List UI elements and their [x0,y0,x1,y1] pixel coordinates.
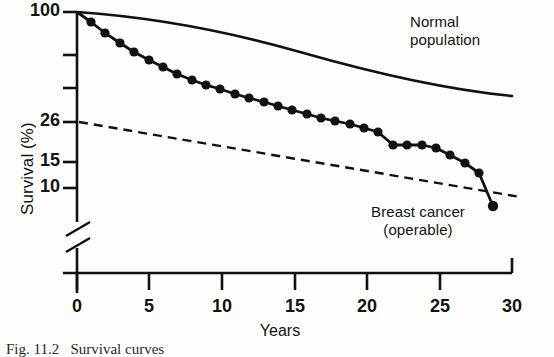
dashed-reference-line [79,122,520,197]
ytick-label-100: 100 [8,0,60,20]
annotation-breast-cancer-line2: (operable) [338,222,498,239]
y-axis-title: Survival (%) [18,122,37,215]
xtick-label-0: 0 [53,296,101,316]
xtick-label-30: 30 [488,296,536,316]
figure-container: 100 26 15 10 Survival (%) 0 5 10 15 20 2… [0,0,554,357]
axis-break-slash-1 [66,222,90,236]
xtick-label-10: 10 [198,296,246,316]
figure-caption: Fig. 11.2 Survival curves [6,341,164,357]
xtick-label-25: 25 [416,296,464,316]
xtick-label-20: 20 [343,296,391,316]
annotation-normal-population-line1: Normal [410,14,459,31]
annotation-breast-cancer-line1: Breast cancer [338,204,498,221]
annotation-normal-population-line2: population [410,32,480,49]
xtick-label-5: 5 [125,296,173,316]
xtick-label-15: 15 [271,296,319,316]
x-axis-title: Years [230,322,330,340]
